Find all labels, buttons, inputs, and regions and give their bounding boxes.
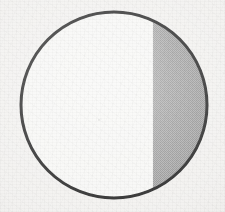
- circle-segment-diagram: [0, 0, 225, 212]
- figure-canvas: [0, 0, 225, 212]
- shaded-circular-segment: [153, 1, 222, 209]
